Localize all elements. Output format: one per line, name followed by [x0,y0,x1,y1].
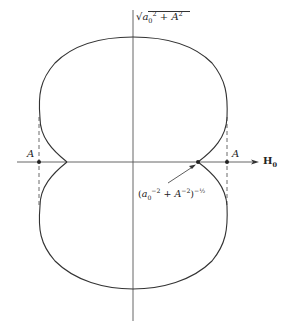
label-plus: + [160,188,174,199]
point-left-A [37,160,41,164]
sqrt-overbar [148,11,190,12]
axis-label-sub: 0 [272,161,277,169]
label-sub: 0 [148,17,152,25]
label-A: A [171,11,178,22]
diagram-canvas [0,0,291,335]
label-sup: −½ [194,187,205,194]
label-sup: −2 [181,187,190,194]
label-plus: + [157,11,172,22]
label-sub: 0 [147,194,151,201]
top-radius-label: √a02 + A2 [136,10,183,25]
cusp-value-label: (a0−2 + A−2)−½ [138,187,205,201]
axis-label-H0: H0 [263,155,277,169]
point-right-A [225,160,229,164]
left-A-label: A [27,148,34,159]
right-A-label: A [232,148,239,159]
pointer-line [168,166,194,183]
point-cusp-right [196,160,200,164]
